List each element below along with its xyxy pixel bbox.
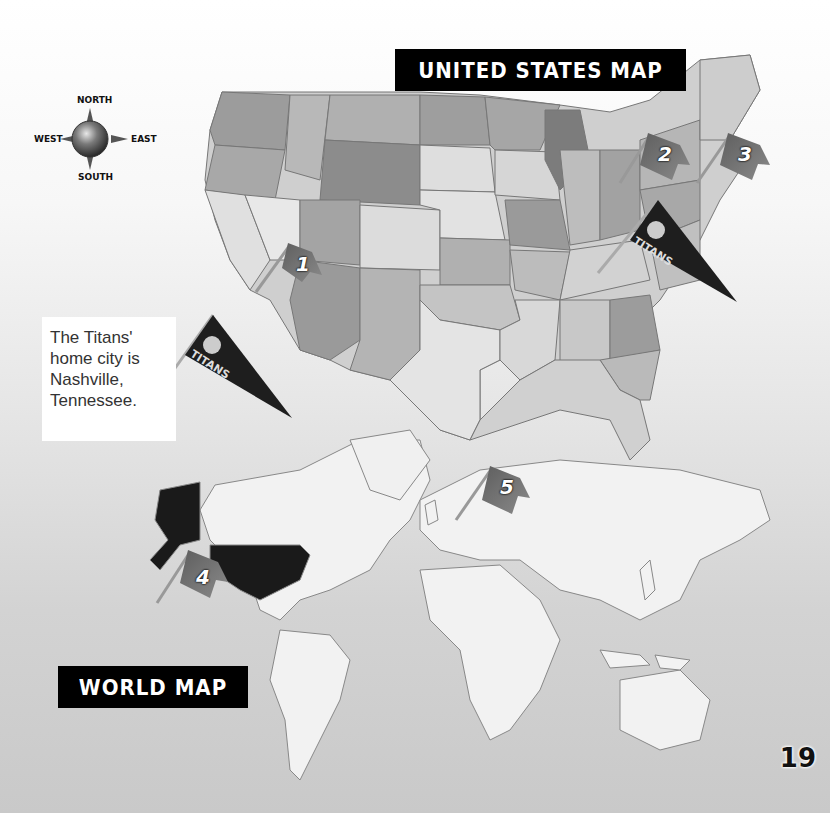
compass-west-label: WEST — [34, 134, 63, 144]
compass-south-label: SOUTH — [78, 172, 113, 182]
world-map-title: World Map — [58, 666, 248, 708]
compass-east-label: EAST — [131, 134, 157, 144]
nashville-callout: The Titans' home city is Nashville, Tenn… — [42, 317, 176, 441]
us-map-title: United States Map — [395, 49, 686, 91]
flag-5-number[interactable]: 5 — [500, 475, 514, 499]
flag-1-number[interactable]: 1 — [296, 252, 310, 276]
compass-rose — [60, 108, 128, 170]
world-map — [150, 430, 770, 780]
flag-4-number[interactable]: 4 — [196, 565, 210, 589]
pennant-graphic-1 — [163, 315, 292, 418]
flag-3-number[interactable]: 3 — [738, 142, 752, 166]
flag-2-number[interactable]: 2 — [658, 142, 672, 166]
compass-north-label: NORTH — [77, 95, 112, 105]
page-number: 19 — [780, 743, 816, 773]
